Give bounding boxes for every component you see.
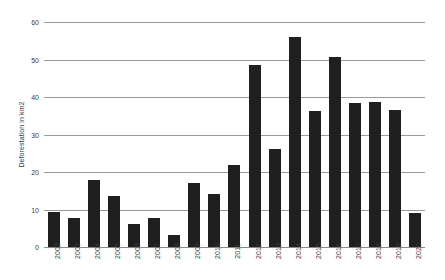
- bar-2009[interactable]: [188, 183, 200, 247]
- x-tick-label-2015: 2015: [315, 243, 322, 259]
- bar-slot: [224, 22, 244, 247]
- x-tick-label-2014: 2014: [295, 243, 302, 259]
- bar-slot: [385, 22, 405, 247]
- y-tick-label-10: 10: [31, 206, 39, 213]
- bar-slot: [265, 22, 285, 247]
- x-tick-label-2013: 2013: [275, 243, 282, 259]
- x-tick-label-2005: 2005: [114, 243, 121, 259]
- bar-2011[interactable]: [228, 165, 240, 247]
- x-tick-label-2016: 2016: [335, 243, 342, 259]
- x-tick: 2020: [405, 249, 425, 280]
- bar-2002[interactable]: [48, 212, 60, 247]
- x-tick-label-2002: 2002: [54, 243, 61, 259]
- y-tick-label-20: 20: [31, 169, 39, 176]
- bar-2015[interactable]: [309, 111, 321, 247]
- x-tick: 2012: [245, 249, 265, 280]
- y-tick-label-40: 40: [31, 94, 39, 101]
- x-tick: 2007: [144, 249, 164, 280]
- bar-2004[interactable]: [88, 180, 100, 248]
- bar-slot: [184, 22, 204, 247]
- y-tick-label-60: 60: [31, 19, 39, 26]
- y-tick-label-50: 50: [31, 56, 39, 63]
- bar-2014[interactable]: [289, 37, 301, 247]
- x-tick-label-2020: 2020: [415, 243, 422, 259]
- x-tick: 2004: [84, 249, 104, 280]
- bar-2005[interactable]: [108, 196, 120, 247]
- bar-slot: [144, 22, 164, 247]
- y-axis-title: Deforestation in km2: [14, 22, 28, 247]
- bar-2018[interactable]: [369, 102, 381, 248]
- bar-slot: [164, 22, 184, 247]
- bar-2019[interactable]: [389, 110, 401, 247]
- x-tick-label-2004: 2004: [94, 243, 101, 259]
- x-tick-label-2017: 2017: [355, 243, 362, 259]
- bar-2017[interactable]: [349, 103, 361, 247]
- bar-slot: [204, 22, 224, 247]
- x-tick: 2019: [385, 249, 405, 280]
- x-tick: 2005: [104, 249, 124, 280]
- x-tick-label-2007: 2007: [154, 243, 161, 259]
- bar-slot: [245, 22, 265, 247]
- bar-2010[interactable]: [208, 194, 220, 247]
- x-tick-label-2019: 2019: [395, 243, 402, 259]
- bars: [44, 22, 425, 247]
- bar-slot: [345, 22, 365, 247]
- x-tick-label-2008: 2008: [174, 243, 181, 259]
- bar-slot: [285, 22, 305, 247]
- plot-area: 0102030405060: [44, 22, 425, 247]
- x-tick: 2006: [124, 249, 144, 280]
- bar-slot: [64, 22, 84, 247]
- x-tick: 2011: [224, 249, 244, 280]
- x-axis-tick-labels: 2002200320042005200620072008200920102011…: [44, 249, 425, 280]
- x-tick: 2014: [285, 249, 305, 280]
- bar-slot: [44, 22, 64, 247]
- x-tick-label-2011: 2011: [234, 243, 241, 258]
- x-tick: 2016: [325, 249, 345, 280]
- y-tick-label-30: 30: [31, 131, 39, 138]
- bar-chart: Deforestation in km2 0102030405060 20022…: [0, 0, 445, 280]
- x-tick-label-2012: 2012: [255, 243, 262, 259]
- x-tick: 2010: [204, 249, 224, 280]
- x-tick: 2003: [64, 249, 84, 280]
- bar-2020[interactable]: [409, 213, 421, 247]
- bar-slot: [405, 22, 425, 247]
- x-tick: 2002: [44, 249, 64, 280]
- bar-slot: [84, 22, 104, 247]
- x-tick-label-2009: 2009: [194, 243, 201, 259]
- bar-2016[interactable]: [329, 57, 341, 247]
- bar-slot: [365, 22, 385, 247]
- x-tick: 2017: [345, 249, 365, 280]
- x-tick: 2015: [305, 249, 325, 280]
- bar-slot: [325, 22, 345, 247]
- x-tick: 2008: [164, 249, 184, 280]
- bar-slot: [305, 22, 325, 247]
- y-tick-label-0: 0: [35, 244, 39, 251]
- bar-2012[interactable]: [249, 65, 261, 247]
- x-tick-label-2003: 2003: [74, 243, 81, 259]
- x-tick: 2009: [184, 249, 204, 280]
- x-tick: 2013: [265, 249, 285, 280]
- x-tick: 2018: [365, 249, 385, 280]
- x-tick-label-2010: 2010: [214, 243, 221, 259]
- bar-slot: [124, 22, 144, 247]
- bar-slot: [104, 22, 124, 247]
- x-tick-label-2006: 2006: [134, 243, 141, 259]
- x-tick-label-2018: 2018: [375, 243, 382, 259]
- bar-2013[interactable]: [269, 149, 281, 247]
